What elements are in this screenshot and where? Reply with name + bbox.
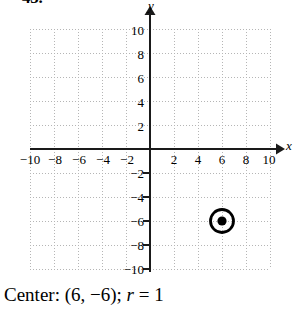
y-tick-label--2: −2 — [108, 167, 144, 180]
x-tick-label--4: −4 — [91, 153, 115, 166]
y-tick-label--6: −6 — [108, 215, 144, 228]
y-tick-label--10: −10 — [102, 263, 144, 276]
figure-page: 45. — [0, 0, 299, 309]
y-tick-label-6: 6 — [108, 72, 144, 85]
x-tick-label--8: −8 — [43, 153, 67, 166]
center-point-marker — [217, 216, 226, 225]
x-tick-label-10: 10 — [256, 153, 282, 166]
y-tick-label-8: 8 — [108, 48, 144, 61]
y-axis-label: y — [148, 0, 154, 12]
y-tick-label-4: 4 — [108, 96, 144, 109]
y-axis — [145, 6, 156, 272]
answer-caption: Center: (6, −6); r = 1 — [4, 283, 164, 306]
x-tick-label-4: 4 — [186, 153, 210, 166]
x-tick-label-6: 6 — [210, 153, 234, 166]
y-tick-label-2: 2 — [108, 120, 144, 133]
x-axis-label: x — [286, 139, 292, 152]
y-tick-label-10: 10 — [108, 24, 144, 37]
coordinate-plane-figure: x y −10 −8 −6 −4 −2 2 4 6 8 10 10 8 6 4 … — [0, 0, 299, 280]
x-tick-label-8: 8 — [234, 153, 258, 166]
y-tick-label--4: −4 — [108, 191, 144, 204]
y-tick-label--8: −8 — [108, 239, 144, 252]
caption-variable-r: r — [127, 284, 134, 305]
x-tick-label--2: −2 — [115, 153, 139, 166]
x-tick-label--10: −10 — [14, 153, 46, 166]
x-tick-label-2: 2 — [162, 153, 186, 166]
coordinate-plane-svg — [0, 0, 299, 280]
caption-suffix: = 1 — [134, 284, 164, 305]
x-tick-label--6: −6 — [67, 153, 91, 166]
caption-prefix: Center: (6, −6); — [4, 284, 127, 305]
